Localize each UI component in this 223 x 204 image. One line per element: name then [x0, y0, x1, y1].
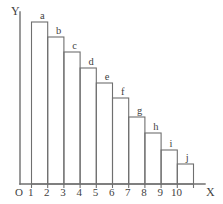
bar [113, 98, 129, 184]
x-tick-label: 1 [28, 187, 34, 198]
x-tick-label: 6 [109, 187, 115, 198]
x-tick-label: 7 [125, 187, 131, 198]
y-axis-label: Y [11, 5, 20, 17]
x-axis-label: X [206, 186, 215, 198]
bar-label: i [170, 139, 173, 150]
x-tick-label: 2 [44, 187, 50, 198]
x-tick-label: 8 [141, 187, 147, 198]
bar [96, 83, 112, 184]
x-tick-label: 3 [60, 187, 66, 198]
origin-label: O [15, 187, 23, 198]
bar [48, 37, 64, 184]
bar-label: g [137, 106, 142, 117]
x-tick-label: 5 [93, 187, 99, 198]
bar-chart-figure: Y X O 12345678910 abcdefghij [0, 0, 223, 204]
bar-label: f [121, 87, 125, 98]
bar [64, 52, 80, 184]
bar-label: c [72, 41, 77, 52]
x-tick-label: 9 [158, 187, 164, 198]
chart-canvas [0, 0, 223, 204]
bar-label: h [153, 122, 158, 133]
bar-label: d [89, 57, 94, 68]
x-tick-label: 4 [77, 187, 83, 198]
bar [80, 68, 96, 184]
bar-label: a [40, 11, 45, 22]
bar-label: e [105, 72, 110, 83]
bar [161, 150, 177, 184]
bar-label: b [56, 26, 61, 37]
x-tick-label: 10 [171, 187, 182, 198]
bar [177, 164, 193, 184]
bar [32, 22, 48, 184]
bar [145, 133, 161, 184]
bar-label: j [186, 153, 189, 164]
bar [129, 117, 145, 184]
bars-group [32, 22, 194, 184]
